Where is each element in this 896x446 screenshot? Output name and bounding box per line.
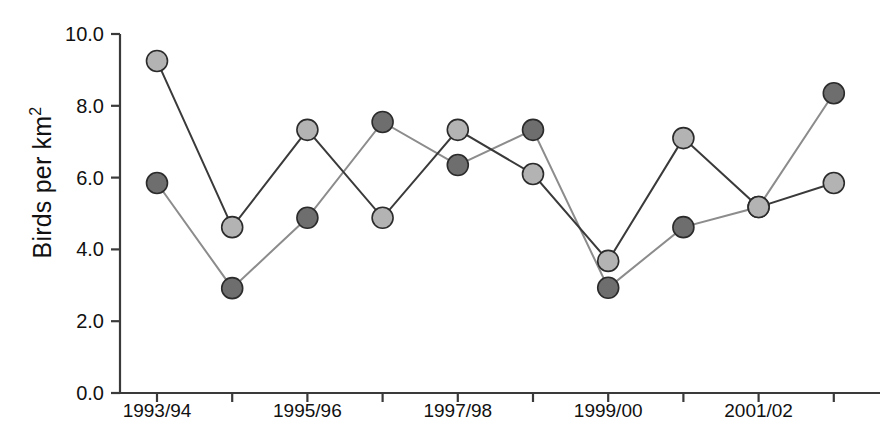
data-point-series-light [372, 207, 393, 228]
chart-container: Birds per km2 0.02.04.06.08.010.0 1993/9… [0, 0, 896, 446]
x-tick-label: 1999/00 [574, 400, 643, 422]
data-point-series-dark [598, 277, 619, 298]
data-point-series-light [297, 119, 318, 140]
data-point-series-light [598, 250, 619, 271]
data-point-series-dark [823, 83, 844, 104]
data-point-series-dark [447, 155, 468, 176]
data-point-series-light [523, 164, 544, 185]
plot-area [0, 0, 896, 446]
data-point-series-dark [147, 172, 168, 193]
x-axis-tick-labels: 1993/941995/961997/981999/002001/02 [0, 400, 896, 440]
data-point-series-light [147, 50, 168, 71]
data-point-series-dark [297, 207, 318, 228]
series-line-series-dark [157, 93, 834, 288]
data-point-series-light [222, 217, 243, 238]
data-point-series-light [673, 128, 694, 149]
series-markers [147, 50, 845, 298]
data-point-series-dark [372, 111, 393, 132]
data-point-series-dark [222, 278, 243, 299]
data-point-series-light [447, 119, 468, 140]
x-tick-label: 1995/96 [273, 400, 342, 422]
x-tick-label: 2001/02 [724, 400, 793, 422]
x-tick-label: 1993/94 [123, 400, 192, 422]
data-point-series-dark [523, 119, 544, 140]
data-point-series-light [748, 197, 769, 218]
series-line-series-light [157, 61, 834, 261]
series-lines [157, 61, 834, 288]
data-point-series-light [823, 172, 844, 193]
x-tick-label: 1997/98 [423, 400, 492, 422]
data-point-series-dark [673, 217, 694, 238]
